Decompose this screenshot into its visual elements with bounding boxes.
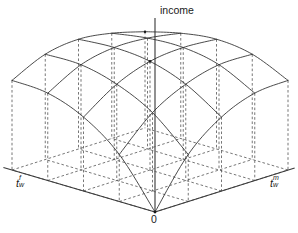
surface-mesh <box>12 32 288 212</box>
right-axis-label-superscript: m <box>273 174 279 181</box>
left-axis-label-subscript: w <box>19 181 24 188</box>
surface-plot-canvas <box>0 0 298 233</box>
left-axis-label-superscript: f <box>19 174 21 181</box>
right-axis-label-scripts: mw <box>273 176 278 187</box>
vertical-axis-label: income <box>160 5 194 16</box>
surface-plot-figure: income 0 tfw tmw <box>0 0 298 233</box>
left-axis-label: tfw <box>16 176 24 188</box>
origin-label: 0 <box>151 214 157 225</box>
right-axis-label-subscript: w <box>273 181 278 188</box>
left-axis-label-scripts: fw <box>19 176 24 187</box>
vertical-drop-lines <box>12 32 288 202</box>
right-axis-label: tmw <box>270 176 278 188</box>
